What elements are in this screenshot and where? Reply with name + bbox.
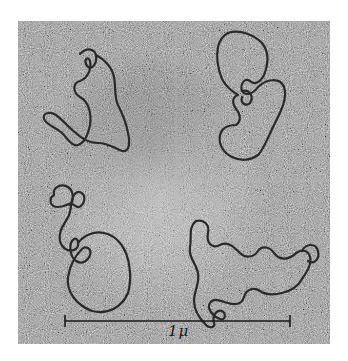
micrograph-image (18, 21, 330, 344)
scale-bar-label: 1μ (168, 322, 189, 340)
